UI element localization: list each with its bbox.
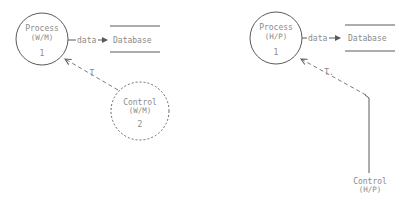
control-number: 2 (138, 120, 143, 129)
process-type: (W/M) (31, 33, 54, 42)
data-store[interactable]: Database (345, 25, 395, 51)
dfd-canvas: Process (W/M) 1 data Database T Control … (0, 0, 410, 200)
control-terminator[interactable]: Control (H/P) (353, 177, 387, 194)
process-node[interactable]: Process (H/P) 1 (250, 12, 302, 64)
flow-label: data (308, 34, 327, 43)
control-type: (H/P) (359, 185, 382, 194)
data-store[interactable]: Database (110, 26, 160, 52)
right-diagram: Process (H/P) 1 data Database T. Control… (250, 12, 395, 194)
process-name: Process (25, 24, 59, 33)
control-flow-label: T. (324, 68, 334, 77)
left-diagram: Process (W/M) 1 data Database T Control … (16, 13, 169, 140)
process-number: 1 (40, 49, 45, 58)
control-type: (W/M) (129, 106, 152, 115)
control-flow-label: T (90, 69, 95, 78)
store-label: Database (113, 36, 152, 45)
process-node[interactable]: Process (W/M) 1 (16, 13, 68, 65)
control-flow-line (301, 59, 366, 95)
terminator-line (365, 95, 369, 173)
control-node[interactable]: Control (W/M) 2 (111, 82, 169, 140)
flow-label: data (77, 36, 96, 45)
control-flow[interactable]: T. (301, 59, 369, 173)
control-flow[interactable]: T (65, 59, 118, 90)
store-label: Database (348, 34, 387, 43)
data-flow[interactable]: data (68, 36, 107, 45)
process-name: Process (259, 23, 293, 32)
process-type: (H/P) (265, 32, 288, 41)
data-flow[interactable]: data (302, 34, 340, 43)
process-number: 1 (274, 48, 279, 57)
